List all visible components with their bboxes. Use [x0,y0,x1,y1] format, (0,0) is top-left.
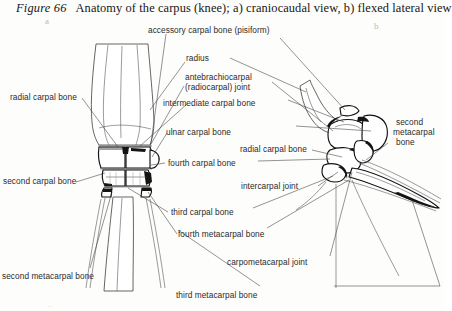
bottom-faint-mark: .. [48,300,52,309]
label-carpometacarpal-joint: carpometacarpal joint [227,258,307,268]
panel-letter-a: a [45,16,49,26]
label-accessory-carpal-bone: accessory carpal bone (pisiform) [148,26,270,36]
panel-a-drawing [86,44,165,291]
panel-letter-b: b [374,21,379,31]
label-radial-carpal-bone-left: radial carpal bone [10,93,77,103]
label-intercarpal-joint: intercarpal joint [241,182,298,192]
figure-number: Figure 66 [16,1,67,15]
figure-caption-text: Anatomy of the carpus (knee); a) cranioc… [76,1,452,15]
label-ulnar-carpal-bone: ulnar carpal bone [166,128,231,138]
label-third-metacarpal-bone: third metacarpal bone [176,291,257,301]
label-radial-carpal-bone-right: radial carpal bone [240,145,307,155]
label-fourth-carpal-bone: fourth carpal bone [168,159,236,169]
panel-b-drawing [296,80,441,288]
label-antebrachiocarpal-joint-line2: (radiocarpal) joint [185,83,250,93]
label-radius: radius [186,54,209,64]
leader-lines [76,34,440,286]
label-intermediate-carpal-bone: intermediate carpal bone [163,99,256,109]
label-second-metacarpal-bone-right-line3: bone [396,138,415,148]
label-second-carpal-bone: second carpal bone [3,177,76,187]
figure-caption: Figure 66Anatomy of the carpus (knee); a… [16,1,440,16]
label-second-metacarpal-bone-left: second metacarpal bone [2,272,94,282]
label-third-carpal-bone: third carpal bone [171,208,234,218]
label-fourth-metacarpal-bone: fourth metacarpal bone [178,230,264,240]
